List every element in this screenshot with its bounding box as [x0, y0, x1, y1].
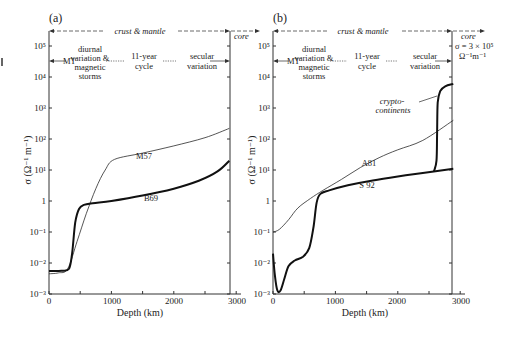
- b69-curve: [49, 161, 229, 271]
- y-tick-label: 10⁴: [258, 72, 270, 82]
- y-tick-label: 10⁻¹: [254, 227, 271, 237]
- arrowhead-icon: [447, 59, 452, 63]
- core-sigma-unit: Ω⁻¹m⁻¹: [459, 51, 486, 61]
- panel-a-label: (a): [49, 11, 62, 25]
- panel-b-label: (b): [273, 11, 287, 25]
- m57-label: M57: [136, 151, 152, 161]
- a81-curve: [273, 120, 453, 232]
- x-axis-title: Depth (km): [342, 307, 388, 319]
- b69-label: B69: [144, 193, 158, 203]
- y-tick-label: 10⁻³: [30, 289, 47, 299]
- y-tick-label: 10³: [34, 103, 46, 113]
- eleven-year-label: 11-year: [131, 51, 157, 61]
- arrowhead-icon: [273, 29, 278, 33]
- x-tick-2000: 2000: [165, 296, 184, 306]
- cycle-label: cycle: [358, 61, 376, 71]
- secular-label: secular: [413, 51, 437, 61]
- conductivity-depth-figure: (a) crust & mantle core MT diurnal varia…: [0, 0, 513, 337]
- a81-label: A81: [362, 158, 377, 168]
- crypto-label-2: continents: [376, 105, 412, 115]
- y-tick-label: 10⁻¹: [30, 227, 47, 237]
- crypto-leader-line: [419, 96, 437, 102]
- panel-a: (a) crust & mantle core MT diurnal varia…: [22, 11, 260, 319]
- y-tick-label: 10⁻³: [254, 289, 271, 299]
- x-tick-3000: 3000: [228, 296, 247, 306]
- secular-variation-label: variation: [410, 61, 441, 71]
- y-tick-label: 10⁵: [34, 41, 46, 51]
- secular-label: secular: [190, 51, 214, 61]
- y-tick-label: 10⁻²: [254, 258, 271, 268]
- x-tick-2000: 2000: [388, 296, 407, 306]
- s92-label: S 92: [359, 180, 374, 190]
- x-tick-0: 0: [271, 296, 276, 306]
- arrowhead-icon: [447, 29, 452, 33]
- y-tick-label: 10⁻²: [30, 258, 47, 268]
- y-tick-label: 10³: [258, 103, 270, 113]
- cycle-label: cycle: [135, 61, 153, 71]
- crypto-continents-curve: [434, 84, 453, 171]
- y-tick-label: 10¹: [34, 165, 46, 175]
- crust-mantle-label: crust & mantle: [338, 26, 389, 36]
- arrowhead-icon: [225, 59, 230, 63]
- storms-label: storms: [303, 71, 326, 81]
- y-tick-label: 10²: [258, 134, 270, 144]
- core-sigma-label: σ = 3 × 10⁵: [455, 41, 493, 51]
- y-axis-title: σ (Ω⁻¹ m⁻¹): [246, 136, 258, 185]
- y-tick-label: 10⁴: [34, 72, 46, 82]
- arrowhead-icon: [49, 29, 54, 33]
- secular-variation-label: variation: [187, 61, 218, 71]
- y-tick-label: 10²: [34, 134, 46, 144]
- crust-mantle-label: crust & mantle: [115, 26, 166, 36]
- eleven-year-label: 11-year: [354, 51, 380, 61]
- storms-label: storms: [79, 71, 102, 81]
- arrowhead-icon: [273, 59, 278, 63]
- y-axis-title: σ (Ω⁻¹ m⁻¹): [22, 136, 34, 185]
- x-tick-1000: 1000: [326, 296, 345, 306]
- x-tick-0: 0: [47, 296, 52, 306]
- y-tick-label: 1: [42, 196, 47, 206]
- tick-marks: [49, 46, 236, 294]
- arrowhead-icon: [255, 29, 260, 33]
- arrowhead-icon: [225, 29, 230, 33]
- core-label: core: [234, 31, 249, 41]
- x-axis-title: Depth (km): [117, 307, 163, 319]
- arrowhead-icon: [480, 29, 485, 33]
- y-tick-label: 1: [266, 196, 271, 206]
- panel-b: (b) crust & mantle core σ = 3 × 10⁵ Ω⁻¹m…: [246, 11, 493, 319]
- core-label: core: [461, 31, 476, 41]
- y-tick-label: 10¹: [258, 165, 270, 175]
- arrowhead-icon: [49, 59, 54, 63]
- x-tick-1000: 1000: [103, 296, 122, 306]
- x-tick-3000: 3000: [452, 296, 471, 306]
- cropped-glyph: [1, 58, 3, 66]
- y-tick-label: 10⁵: [258, 41, 270, 51]
